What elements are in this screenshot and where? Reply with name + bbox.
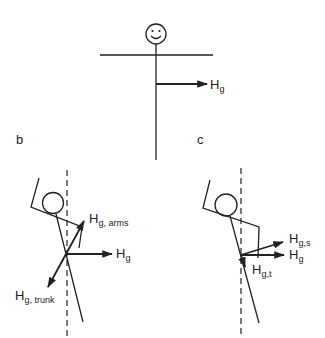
hg-trunk-arrow [48,254,66,287]
panel-label-c: c [197,132,204,147]
panel-c: c Hg,s Hg Hg,t [197,132,311,338]
panel-label-b: b [16,132,23,147]
head [43,193,64,214]
hg-arms-label: Hg, arms [89,211,129,228]
angular-momentum-diagram: Hg b Hg, arms Hg Hg, trunk c Hg,s Hg Hg,… [0,0,325,338]
panel-b: b Hg, arms Hg Hg, trunk [15,132,130,338]
hg-label: Hg [210,77,224,94]
hg-s-label: Hg,s [289,231,311,248]
hg-label: Hg [289,247,303,264]
panel-a: Hg [100,24,224,160]
smiley-head-icon [146,24,166,44]
hg-arms-arrow [66,221,84,254]
hg-s-arrow [241,242,283,255]
hg-trunk-label: Hg, trunk [15,288,55,305]
hg-t-label: Hg,t [252,262,272,279]
hg-label: Hg [116,246,130,263]
